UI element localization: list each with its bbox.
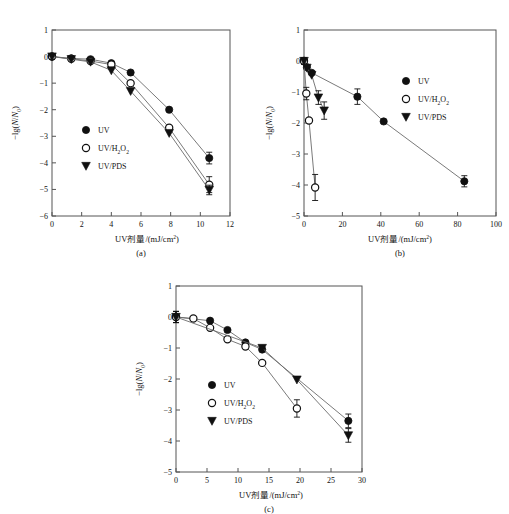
data-point [190,315,197,322]
x-tick-label: 15 [265,476,273,485]
plot-a: 02468101210−1−2−3−4−5−6UVUV/H2O2UV/PDSUV… [0,8,258,258]
x-tick-label: 2 [80,220,84,229]
data-point [345,417,352,424]
y-tick-label: 0 [296,57,300,66]
data-point [312,184,319,191]
panel-caption: (c) [264,504,274,514]
x-tick-label: 60 [415,220,423,229]
y-axis-label: −lg(N/N0) [10,106,22,140]
x-tick-label: 20 [338,220,346,229]
legend-marker [82,126,89,133]
x-tick-label: 80 [454,220,462,229]
x-tick-label: 8 [169,220,173,229]
y-tick-label: −2 [163,375,172,384]
series-1 [48,53,212,164]
data-point [314,94,323,102]
x-tick-label: 0 [302,220,306,229]
legend-marker [402,77,409,84]
x-tick-label: 0 [174,476,178,485]
y-tick-label: 1 [44,26,48,35]
y-tick-label: −3 [39,132,48,141]
data-point [242,343,249,350]
x-tick-label: 40 [377,220,385,229]
series-1 [300,57,468,186]
y-tick-label: −1 [291,88,300,97]
data-point [380,118,387,125]
plot-frame [52,30,230,216]
data-point [206,154,213,161]
legend-marker [208,381,215,388]
data-point [461,178,468,185]
y-tick-label: 0 [44,53,48,62]
panel-c: 05101520253010−1−2−3−4−5UVUV/H2O2UV/PDSU… [128,262,384,514]
x-tick-label: 100 [490,220,502,229]
y-tick-label: −5 [39,185,48,194]
legend-marker [208,399,215,406]
legend: UVUV/H2O2UV/PDS [402,77,449,122]
legend-marker [82,144,89,151]
data-point [259,359,266,366]
legend-marker [82,162,91,170]
x-tick-label: 5 [205,476,209,485]
y-tick-label: −4 [163,437,172,446]
legend-marker [402,95,409,102]
legend: UVUV/H2O2UV/PDS [82,126,129,171]
data-point [205,186,214,194]
panel-caption: (a) [136,248,146,258]
series-line [176,317,348,421]
y-tick-label: −3 [291,150,300,159]
data-point [293,405,300,412]
x-tick-label: 4 [109,220,113,229]
y-tick-label: −5 [163,468,172,477]
x-axis-label: UV剂量/(mJ/cm2) [115,234,179,244]
legend-label: UV [98,126,110,135]
series-2 [300,57,318,200]
legend-marker [208,417,217,425]
data-point [127,69,134,76]
data-point [224,326,231,333]
panel-a: 02468101210−1−2−3−4−5−6UVUV/H2O2UV/PDSUV… [0,8,258,258]
y-tick-label: −2 [291,119,300,128]
y-tick-label: −6 [39,212,48,221]
y-axis-label: −lg(N/N0) [264,106,276,140]
legend: UVUV/H2O2UV/PDS [208,381,255,426]
y-tick-label: 0 [168,313,172,322]
legend-label: UV [418,77,430,86]
panel-b: 02040608010010−1−2−3−4−5UVUV/H2O2UV/PDSU… [258,8,509,258]
data-point [166,106,173,113]
y-tick-label: 1 [168,282,172,291]
legend-label: UV/H2O2 [98,144,129,155]
x-tick-label: 20 [296,476,304,485]
x-tick-label: 6 [139,220,143,229]
data-point [320,107,329,115]
x-axis-label: UV剂量/(mJ/cm2) [239,490,303,500]
legend-label: UV/PDS [224,417,252,426]
y-tick-label: −2 [39,106,48,115]
y-tick-label: 1 [296,26,300,35]
data-point [303,90,310,97]
x-tick-label: 25 [327,476,335,485]
data-point [344,432,353,440]
data-point [207,317,214,324]
series-3 [172,311,353,442]
y-tick-label: −4 [39,159,48,168]
panel-caption: (b) [395,248,405,258]
data-point [305,117,312,124]
x-tick-label: 0 [50,220,54,229]
legend-marker [402,113,411,121]
x-tick-label: 12 [226,220,234,229]
x-axis-label: UV剂量/(mJ/cm2) [368,234,432,244]
y-tick-label: −5 [291,212,300,221]
y-tick-label: −3 [163,406,172,415]
x-tick-label: 30 [358,476,366,485]
plot-b: 02040608010010−1−2−3−4−5UVUV/H2O2UV/PDSU… [258,8,509,258]
legend-label: UV/H2O2 [418,95,449,106]
plot-c: 05101520253010−1−2−3−4−5UVUV/H2O2UV/PDSU… [128,262,384,514]
data-point [127,80,134,87]
y-tick-label: −4 [291,181,300,190]
x-tick-label: 10 [196,220,204,229]
y-tick-label: −1 [39,79,48,88]
legend-label: UV/PDS [98,162,126,171]
plot-frame [176,286,362,472]
data-point [165,129,174,137]
